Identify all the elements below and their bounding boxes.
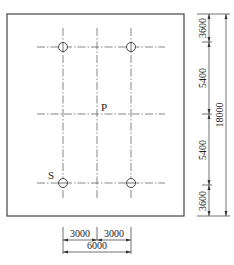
dim-vertical-total: 18000 xyxy=(214,103,225,128)
hole-top-right xyxy=(127,43,136,52)
dim-vertical-seg-1: 3600 xyxy=(197,18,208,38)
slab-outline xyxy=(7,14,184,216)
dim-vertical-seg-3: 5400 xyxy=(197,140,208,160)
horizontal-dimension-chain: 3000 3000 6000 xyxy=(63,227,131,254)
hole-bottom-right xyxy=(127,179,136,188)
hole-bottom-left xyxy=(59,179,68,188)
hole-top-left xyxy=(59,43,68,52)
label-p: P xyxy=(101,101,107,113)
dim-horizontal-total: 6000 xyxy=(87,240,107,251)
plan-drawing: P S 3600 5400 5400 3600 18000 xyxy=(0,0,234,265)
label-s: S xyxy=(48,169,54,181)
dim-vertical-seg-4: 3600 xyxy=(197,191,208,211)
dim-horizontal-seg-2: 3000 xyxy=(104,228,124,239)
dim-vertical-seg-2: 5400 xyxy=(197,68,208,88)
vertical-dimension-chain: 3600 5400 5400 3600 18000 xyxy=(197,14,230,216)
dim-horizontal-seg-1: 3000 xyxy=(70,228,90,239)
